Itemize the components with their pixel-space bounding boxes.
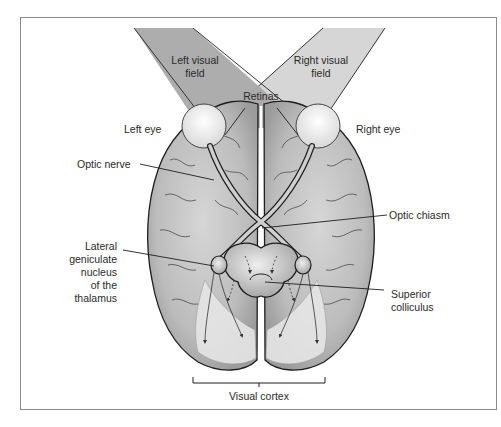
label-lgn-2: geniculate: [69, 253, 117, 265]
visual-pathway-diagram: Left visual field Right visual field Ret…: [0, 0, 501, 427]
label-right-visual-field-2: field: [311, 67, 330, 79]
label-superior-colliculus-1: Superior: [391, 288, 431, 300]
label-lgn-4: of the: [91, 279, 117, 291]
label-left-visual-field-2: field: [185, 67, 204, 79]
right-lgn: [295, 256, 311, 274]
label-optic-chiasm: Optic chiasm: [389, 209, 450, 221]
label-lgn-5: thalamus: [74, 292, 117, 304]
left-eye: [182, 104, 226, 148]
left-lgn: [211, 256, 227, 274]
label-superior-colliculus-2: colliculus: [391, 301, 434, 313]
brain: [148, 101, 375, 370]
visual-cortex-bracket: [193, 377, 325, 387]
label-left-visual-field-1: Left visual: [171, 54, 218, 66]
label-right-visual-field-1: Right visual: [294, 54, 348, 66]
label-lgn-1: Lateral: [85, 240, 117, 252]
label-retinas: Retinas: [243, 90, 279, 102]
label-optic-nerve: Optic nerve: [77, 158, 131, 170]
label-left-eye: Left eye: [124, 123, 162, 135]
label-lgn-3: nucleus: [81, 266, 117, 278]
label-right-eye: Right eye: [356, 123, 401, 135]
right-eye: [296, 104, 340, 148]
label-visual-cortex: Visual cortex: [229, 390, 290, 402]
